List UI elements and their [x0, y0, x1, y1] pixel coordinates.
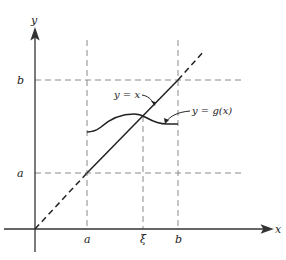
x-axis-label: x [275, 223, 282, 236]
identity-dashed-upper [178, 51, 204, 80]
y-tick-b: b [17, 74, 24, 87]
identity-line [35, 51, 204, 229]
identity-pointer [142, 95, 154, 104]
g-curve [87, 114, 178, 132]
y-axis-label: y [30, 14, 38, 27]
x-tick-b: b [175, 233, 182, 246]
fixed-point-diagram: y x b a a ξ b y = x y = g(x) [0, 0, 286, 260]
x-axis-arrow-icon [262, 226, 272, 233]
y-tick-a: a [17, 167, 24, 180]
y-axis-arrow-icon [32, 29, 39, 39]
identity-dashed-lower [35, 173, 87, 229]
g-label: y = g(x) [191, 105, 232, 116]
x-tick-a: a [84, 233, 91, 246]
x-tick-xi: ξ [140, 233, 147, 246]
guide-lines [35, 40, 245, 229]
identity-label: y = x [113, 89, 140, 100]
